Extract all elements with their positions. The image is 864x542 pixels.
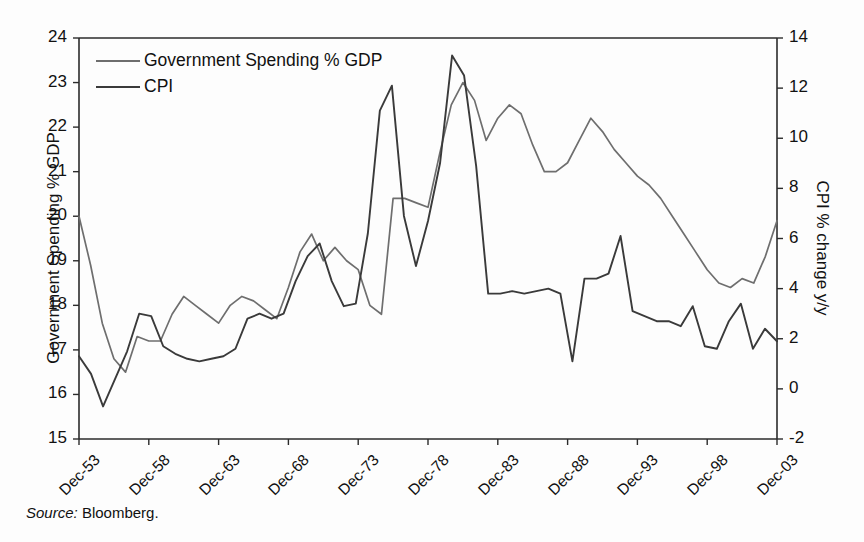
left-tick-label: 22 xyxy=(27,116,67,136)
axis-ticks xyxy=(73,38,783,445)
left-tick-label: 19 xyxy=(27,250,67,270)
right-tick-label: -2 xyxy=(789,428,829,448)
source-prefix: Source: xyxy=(26,504,78,521)
source-value: Bloomberg. xyxy=(82,504,159,521)
left-tick-label: 17 xyxy=(27,339,67,359)
right-tick-label: 6 xyxy=(789,228,829,248)
left-tick-label: 21 xyxy=(27,161,67,181)
right-tick-label: 14 xyxy=(789,27,829,47)
left-tick-label: 24 xyxy=(27,27,67,47)
source-note: Source: Bloomberg. xyxy=(26,504,159,521)
right-tick-label: 2 xyxy=(789,328,829,348)
left-tick-label: 20 xyxy=(27,205,67,225)
left-tick-label: 16 xyxy=(27,383,67,403)
chart-figure: Government Spending % GDP CPI % change y… xyxy=(0,0,864,542)
right-tick-label: 0 xyxy=(789,378,829,398)
data-series xyxy=(79,56,777,407)
left-tick-label: 23 xyxy=(27,72,67,92)
right-tick-label: 8 xyxy=(789,177,829,197)
left-tick-label: 15 xyxy=(27,428,67,448)
axis-frame xyxy=(79,38,777,439)
right-tick-label: 4 xyxy=(789,278,829,298)
right-tick-label: 10 xyxy=(789,127,829,147)
right-tick-label: 12 xyxy=(789,77,829,97)
left-tick-label: 18 xyxy=(27,294,67,314)
